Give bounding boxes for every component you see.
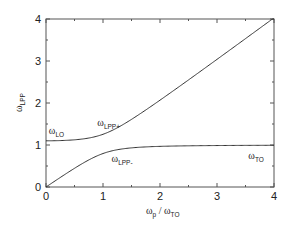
x-tick-label: 0 xyxy=(43,190,49,202)
x-axis-title-sep: / xyxy=(156,205,164,216)
x-tick-label: 3 xyxy=(214,190,220,202)
plot-frame xyxy=(46,19,274,187)
y-axis-title-sub: LPP xyxy=(19,93,26,105)
annotations: ωLOωLPP+ωLPP-ωTO xyxy=(49,117,264,166)
x-axis-title-sub2: TO xyxy=(171,211,180,218)
series-lpp-plus xyxy=(46,19,274,141)
y-axis-title: ωLPP xyxy=(13,93,26,112)
y-tick-label: 1 xyxy=(35,139,41,151)
axis-ticks xyxy=(46,19,274,187)
y-tick-label: 3 xyxy=(35,55,41,67)
annotation-to: ωTO xyxy=(248,150,264,163)
lpp-dispersion-chart: 0123401234 ωLOωLPP+ωLPP-ωTO ωp / ωTO ωLP… xyxy=(0,0,290,225)
x-tick-label: 4 xyxy=(271,190,277,202)
y-tick-label: 2 xyxy=(35,97,41,109)
x-tick-label: 1 xyxy=(100,190,106,202)
x-tick-label: 2 xyxy=(157,190,163,202)
curves xyxy=(46,19,274,187)
x-axis-title: ωp / ωTO xyxy=(146,205,180,219)
tick-labels: 0123401234 xyxy=(35,13,277,202)
series-lpp-minus xyxy=(46,145,274,187)
y-tick-label: 4 xyxy=(35,13,41,25)
annotation-lpp-minus: ωLPP- xyxy=(112,153,133,166)
annotation-lpp-plus: ωLPP+ xyxy=(97,117,120,130)
y-tick-label: 0 xyxy=(35,181,41,193)
annotation-lo: ωLO xyxy=(49,125,64,138)
